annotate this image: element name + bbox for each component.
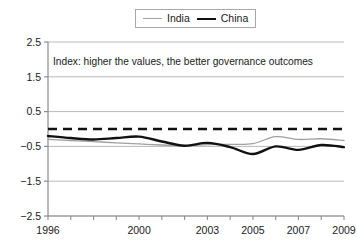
- series-line-china: [48, 136, 344, 154]
- svg-text:2.5: 2.5: [26, 36, 41, 48]
- gridlines: [48, 42, 344, 216]
- svg-text:2000: 2000: [127, 224, 151, 236]
- plot-area: 2.51.50.5−0.5−1.5−2.5 199620002003200520…: [0, 0, 357, 252]
- chart-svg: 2.51.50.5−0.5−1.5−2.5 199620002003200520…: [0, 0, 357, 252]
- x-axis-tick-labels: 199620002003200520072009: [36, 224, 356, 236]
- svg-text:2009: 2009: [332, 224, 356, 236]
- svg-text:1.5: 1.5: [26, 71, 41, 83]
- svg-text:1996: 1996: [36, 224, 60, 236]
- svg-text:2003: 2003: [196, 224, 220, 236]
- svg-text:−1.5: −1.5: [20, 175, 41, 187]
- svg-text:−2.5: −2.5: [20, 210, 41, 222]
- svg-text:0.5: 0.5: [26, 105, 41, 117]
- y-axis-tick-labels: 2.51.50.5−0.5−1.5−2.5: [20, 36, 41, 222]
- chart-annotation: Index: higher the values, the better gov…: [53, 56, 313, 67]
- chart-root: India China 2.51.50.5−0.5−1.5−2.5 199620…: [0, 0, 357, 252]
- svg-text:2007: 2007: [287, 224, 311, 236]
- svg-text:2005: 2005: [241, 224, 265, 236]
- svg-text:−0.5: −0.5: [20, 140, 41, 152]
- x-axis-ticks: [48, 216, 344, 220]
